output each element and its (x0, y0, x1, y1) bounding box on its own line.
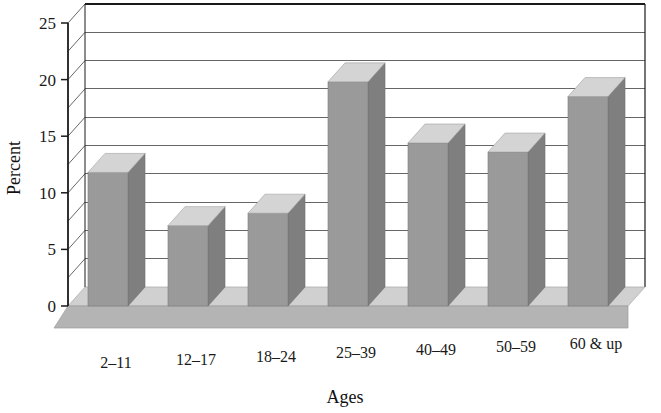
bar-group (168, 207, 225, 306)
bar-side-face (288, 194, 305, 306)
x-axis-category-label: 2–11 (100, 354, 131, 371)
x-axis-category-label: 18–24 (256, 348, 296, 365)
gridline-depth-connector (68, 146, 85, 165)
bar-front-face (88, 172, 128, 306)
x-axis-category-label: 50–59 (496, 338, 536, 355)
floor-front-edge (54, 306, 628, 328)
y-axis-tick-label: 25 (39, 14, 56, 33)
x-axis-category-label: 40–49 (416, 341, 456, 358)
bar-front-face (328, 82, 368, 306)
bar-side-face (448, 124, 465, 306)
bar-front-face (408, 143, 448, 306)
gridline-depth-connector (68, 32, 85, 51)
y-axis-tick-label: 15 (39, 127, 56, 146)
gridline-depth-connector (68, 259, 85, 278)
bar-front-face (168, 226, 208, 306)
y-axis-tick-label: 20 (39, 71, 56, 90)
y-axis-tick-label: 5 (48, 240, 57, 259)
bar-side-face (528, 133, 545, 306)
gridline-depth-connector (68, 117, 85, 136)
bar-front-face (488, 152, 528, 306)
bar-side-face (368, 63, 385, 306)
gridline-depth-connector (68, 61, 85, 80)
y-axis-tick-label: 10 (39, 184, 56, 203)
x-axis-category-label: 25–39 (336, 344, 376, 361)
x-axis-category-label: 12–17 (176, 351, 216, 368)
bar-group (328, 63, 385, 306)
bar-group (88, 153, 145, 306)
y-axis-tick-label: 0 (48, 297, 57, 316)
gridline-depth-connector (68, 174, 85, 193)
bar-front-face (568, 97, 608, 306)
bar-group (488, 133, 545, 306)
chart-canvas: 05101520252–1112–1718–2425–3940–4950–596… (0, 0, 661, 413)
bar-group (568, 78, 625, 306)
gridline-depth-connector (68, 202, 85, 221)
y-axis-title: Percent (4, 141, 24, 195)
x-axis-title: Ages (327, 387, 364, 407)
bar-group (408, 124, 465, 306)
x-axis-category-label: 60 & up (570, 335, 622, 353)
bar-side-face (608, 78, 625, 306)
bar-group (248, 194, 305, 306)
gridline-depth-connector (68, 89, 85, 108)
gridline-depth-connector (68, 4, 85, 23)
bar-front-face (248, 213, 288, 306)
bar-chart-figure: 05101520252–1112–1718–2425–3940–4950–596… (0, 0, 661, 413)
bar-side-face (128, 153, 145, 306)
gridline-depth-connector (68, 230, 85, 249)
